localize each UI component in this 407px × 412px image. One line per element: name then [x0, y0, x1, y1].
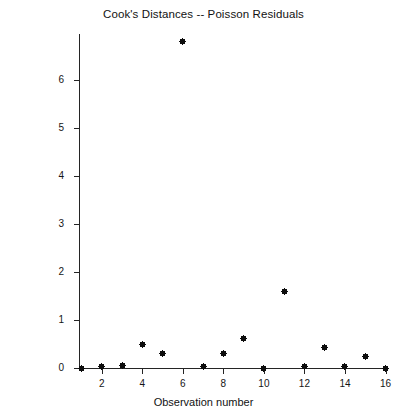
data-point [220, 350, 227, 357]
y-tick-label-0: 0 [24, 363, 64, 373]
x-tick-label-8: 8 [208, 378, 238, 389]
marker-square [201, 364, 206, 369]
x-tick-8 [223, 369, 224, 374]
marker-square [79, 366, 84, 371]
data-point [98, 363, 105, 370]
y-tick-label-2: 2 [24, 267, 64, 277]
y-tick-label-1: 1 [24, 315, 64, 325]
x-tick-label-2: 2 [87, 378, 117, 389]
x-tick-4 [142, 369, 143, 374]
y-tick-3 [74, 224, 79, 225]
x-tick-label-14: 14 [330, 378, 360, 389]
data-point [159, 350, 166, 357]
marker-square [120, 363, 125, 368]
x-tick-label-6: 6 [168, 378, 198, 389]
data-point [341, 363, 348, 370]
x-tick-label-10: 10 [249, 378, 279, 389]
y-tick-6 [74, 80, 79, 81]
y-tick-5 [74, 128, 79, 129]
x-tick-label-12: 12 [289, 378, 319, 389]
marker-square [241, 336, 246, 341]
data-point [301, 363, 308, 370]
marker-square [363, 354, 368, 359]
marker-square [322, 345, 327, 350]
x-tick-label-16: 16 [371, 378, 401, 389]
y-tick-label-3: 3 [24, 219, 64, 229]
data-point [281, 288, 288, 295]
data-point [382, 365, 389, 372]
marker-square [282, 289, 287, 294]
data-point [139, 341, 146, 348]
y-tick-label-6: 6 [24, 75, 64, 85]
data-point [179, 38, 186, 45]
marker-square [180, 39, 185, 44]
marker-square [140, 342, 145, 347]
y-tick-label-4: 4 [24, 171, 64, 181]
marker-square [261, 366, 266, 371]
data-point [260, 365, 267, 372]
data-point [321, 344, 328, 351]
x-tick-2 [102, 369, 103, 374]
marker-square [99, 364, 104, 369]
data-point [362, 353, 369, 360]
data-point [200, 363, 207, 370]
y-tick-4 [74, 176, 79, 177]
data-point [240, 335, 247, 342]
y-tick-label-5: 5 [24, 123, 64, 133]
y-axis-line [79, 34, 80, 369]
marker-square [302, 364, 307, 369]
marker-square [221, 351, 226, 356]
y-tick-1 [74, 320, 79, 321]
x-tick-6 [183, 369, 184, 374]
marker-square [383, 366, 388, 371]
plot-area: 0123456 246810121416 [0, 0, 407, 412]
marker-square [342, 364, 347, 369]
y-tick-2 [74, 272, 79, 273]
marker-square [160, 351, 165, 356]
data-point [119, 362, 126, 369]
x-tick-label-4: 4 [127, 378, 157, 389]
x-axis-title: Observation number [0, 396, 407, 408]
data-point [78, 365, 85, 372]
chart-page: Cook's Distances -- Poisson Residuals 01… [0, 0, 407, 412]
